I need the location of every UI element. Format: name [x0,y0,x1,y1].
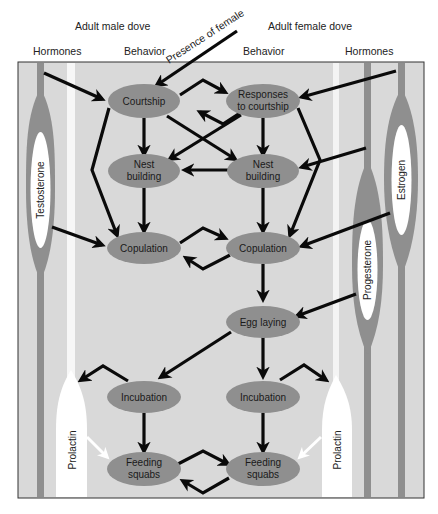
node-male-copulation: Copulation [107,232,181,264]
svg-text:Egg laying: Egg laying [240,317,287,328]
node-male-incubation: Incubation [107,381,181,413]
estrogen-label: Estrogen [396,160,407,200]
svg-text:squabs: squabs [128,469,160,480]
node-male-nest-building: Nest building [108,154,180,188]
progesterone-label: Progesterone [362,240,373,300]
node-female-responses: Responses to courtship [226,84,300,118]
prolactin-label-female: Prolactin [332,431,343,470]
svg-text:Incubation: Incubation [121,392,167,403]
svg-text:Courtship: Courtship [123,96,166,107]
behavior-heading-left: Behavior [124,45,166,57]
svg-text:Copulation: Copulation [120,243,168,254]
hormones-heading-left: Hormones [33,45,81,57]
svg-text:Feeding: Feeding [245,457,281,468]
prolactin-label-male: Prolactin [67,431,78,470]
node-male-feeding-squabs: Feeding squabs [107,452,181,486]
node-female-incubation: Incubation [226,381,300,413]
svg-text:Copulation: Copulation [239,243,287,254]
node-female-egg-laying: Egg laying [226,306,300,338]
node-female-nest-building: Nest building [227,154,299,188]
svg-text:Feeding: Feeding [126,457,162,468]
node-female-feeding-squabs: Feeding squabs [226,452,300,486]
svg-text:squabs: squabs [247,469,279,480]
male-dove-title: Adult male dove [75,20,150,32]
hormones-heading-right: Hormones [345,45,393,57]
dove-reproductive-behavior-diagram: Adult male dove Adult female dove Hormon… [0,0,438,514]
testosterone-label: Testosterone [35,161,46,219]
svg-text:to courtship: to courtship [237,101,289,112]
svg-text:building: building [127,171,161,182]
svg-text:Responses: Responses [238,89,288,100]
svg-text:Incubation: Incubation [240,392,286,403]
female-dove-title: Adult female dove [268,20,352,32]
svg-text:building: building [246,171,280,182]
node-male-courtship: Courtship [108,84,180,118]
svg-text:Nest: Nest [253,159,274,170]
presence-of-female-label: Presence of female [164,6,247,65]
node-female-copulation: Copulation [226,232,300,264]
behavior-heading-right: Behavior [243,45,285,57]
svg-text:Nest: Nest [134,159,155,170]
